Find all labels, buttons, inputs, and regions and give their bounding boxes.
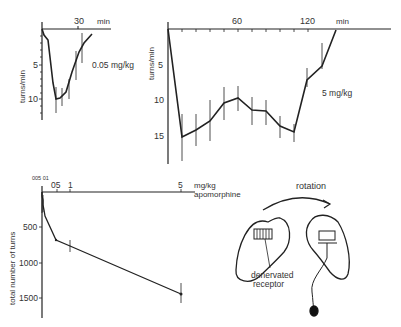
- x-tick-05: 05: [51, 180, 61, 190]
- y-axis-label: total number of turns: [8, 232, 17, 305]
- y-tick-5: 5: [33, 60, 38, 70]
- electrode-tip-icon: [310, 306, 318, 316]
- y-tick-5: 5: [158, 60, 163, 70]
- y-tick-1500: 1500: [19, 293, 38, 303]
- chart-low-dose: [39, 22, 111, 120]
- chart-dose-response: [39, 186, 195, 318]
- x-tick-1: 1: [68, 180, 73, 190]
- x-tick-30: 30: [74, 16, 84, 26]
- figure: 30 min 5 10 turns/min 0.05 mg/kg: [0, 0, 401, 327]
- dose-label: 0.05 mg/kg: [92, 60, 134, 70]
- data-line: [42, 192, 181, 294]
- y-tick-10: 10: [154, 95, 164, 105]
- brain-diagram: [236, 198, 349, 316]
- y-tick-15: 15: [154, 131, 164, 141]
- x-unit: min: [336, 17, 349, 26]
- x-tick-60: 60: [232, 16, 242, 26]
- rotation-label: rotation: [296, 181, 326, 191]
- y-axis-label: turns/min: [18, 70, 27, 103]
- electrode-wire: [312, 243, 327, 308]
- chart-high-dose: [168, 22, 391, 164]
- y-axis-label: turns/min: [147, 47, 156, 80]
- rotation-arrow: [263, 198, 330, 210]
- y-tick-1000: 1000: [19, 258, 38, 268]
- receptor-label-line2: receptor: [253, 279, 284, 289]
- x-unit: min: [97, 17, 110, 26]
- dose-label: 5 mg/kg: [322, 88, 353, 98]
- error-bars: [42, 192, 181, 303]
- data-line: [42, 29, 92, 99]
- right-hemisphere: [306, 215, 349, 279]
- x-unit: mg/kg: [194, 181, 216, 190]
- error-bars: [56, 33, 82, 113]
- y-tick-500: 500: [23, 222, 37, 232]
- x-drug-label: apomorphine: [194, 190, 241, 199]
- x-tick-small: 005 01: [32, 175, 49, 181]
- x-tick-120: 120: [300, 16, 315, 26]
- receptor-icon: [319, 231, 335, 240]
- x-tick-5: 5: [178, 180, 183, 190]
- y-tick-10: 10: [28, 94, 38, 104]
